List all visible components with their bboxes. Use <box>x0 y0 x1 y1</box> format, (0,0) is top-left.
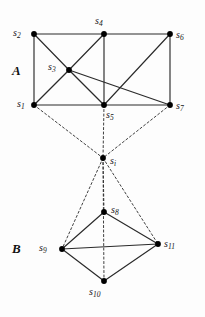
edge-s5-s6 <box>104 34 170 105</box>
dashed-edge-layer <box>34 105 170 281</box>
node-label-s4: s4 <box>95 16 103 27</box>
node-label-subscript-si: i <box>114 159 116 168</box>
graph-canvas <box>0 0 205 317</box>
edge-s8-s11 <box>104 212 158 244</box>
node-label-s8: s8 <box>111 205 119 216</box>
node-si[interactable] <box>100 155 106 161</box>
edge-s9-s11 <box>62 244 158 249</box>
node-label-subscript-s5: 5 <box>110 113 114 122</box>
node-label-subscript-s10: 10 <box>93 290 101 299</box>
node-label-s5: s5 <box>106 110 114 121</box>
node-label-subscript-s1: 1 <box>21 102 25 111</box>
node-label-subscript-s8: 8 <box>115 208 119 217</box>
edge-s1-si <box>34 105 103 158</box>
edge-si-s11 <box>103 158 158 244</box>
node-label-subscript-s7: 7 <box>180 104 184 113</box>
node-label-s7: s7 <box>176 101 184 112</box>
edge-s8-s9 <box>62 212 104 249</box>
node-label-s11: s11 <box>164 239 175 250</box>
edge-s9-s10 <box>62 249 104 281</box>
node-label-subscript-s9: 9 <box>43 246 47 255</box>
group-label-group-a: A <box>12 64 21 77</box>
edge-s3-s5 <box>69 70 104 105</box>
node-s9[interactable] <box>59 246 65 252</box>
node-s6[interactable] <box>167 31 173 37</box>
node-label-s9: s9 <box>39 243 47 254</box>
edge-s3-s1 <box>34 70 69 105</box>
node-label-subscript-s3: 3 <box>52 65 56 74</box>
node-s5[interactable] <box>101 102 107 108</box>
node-s2[interactable] <box>31 31 37 37</box>
node-label-s10: s10 <box>89 287 101 298</box>
node-label-subscript-s4: 4 <box>99 19 103 28</box>
node-label-s3: s3 <box>48 62 56 73</box>
node-s1[interactable] <box>31 102 37 108</box>
node-label-subscript-s6: 6 <box>180 33 184 42</box>
edge-s3-s4 <box>69 34 104 70</box>
node-s7[interactable] <box>167 102 173 108</box>
node-s8[interactable] <box>101 209 107 215</box>
node-label-s2: s2 <box>13 28 21 39</box>
node-label-s6: s6 <box>176 30 184 41</box>
node-label-subscript-s2: 2 <box>17 31 21 40</box>
node-s11[interactable] <box>155 241 161 247</box>
group-label-group-b: B <box>12 242 21 255</box>
graph-figure: s1s2s3s4s5s6s7sis8s9s10s11 AB <box>0 0 205 317</box>
edge-s10-s11 <box>104 244 158 281</box>
edge-si-s9 <box>62 158 103 249</box>
node-label-s1: s1 <box>17 99 25 110</box>
node-s3[interactable] <box>66 67 72 73</box>
edge-si-s10 <box>103 158 104 281</box>
node-s10[interactable] <box>101 278 107 284</box>
node-s4[interactable] <box>101 31 107 37</box>
edge-s5-si <box>103 105 104 158</box>
node-label-subscript-s11: 11 <box>168 242 175 251</box>
node-label-si: si <box>110 156 116 167</box>
